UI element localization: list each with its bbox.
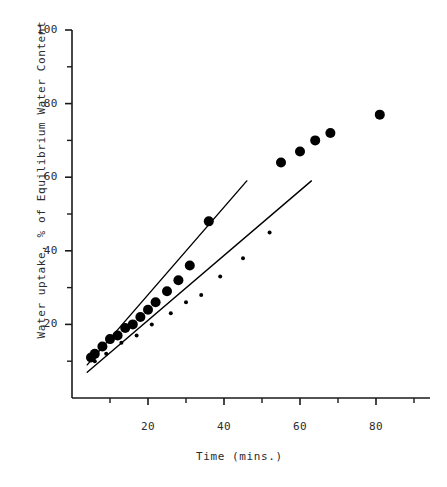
data-point [218,275,222,279]
data-point [169,311,173,315]
x-tick-label: 20 [133,420,163,433]
x-axis-ticks [110,398,414,405]
chart-figure: 10080604020 20406080 Time (mins.) Water … [0,0,447,487]
data-point [276,157,286,167]
x-tick-label: 80 [361,420,391,433]
series-small-markers [93,230,272,363]
data-point [97,341,107,351]
data-point [119,341,123,345]
data-point [113,330,123,340]
axis-lines [72,30,430,398]
y-axis-title: Water uptake, % of Equilibrium Water Con… [35,59,48,339]
series-large-markers [86,110,385,363]
chart-plot-area [0,0,447,487]
data-point [135,333,139,337]
data-point [310,135,320,145]
data-point [90,349,100,359]
data-point [268,230,272,234]
x-tick-label: 60 [285,420,315,433]
data-point [150,322,154,326]
data-point [199,293,203,297]
data-point [204,216,214,226]
data-point [128,319,138,329]
data-point [295,146,305,156]
x-axis-title: Time (mins.) [196,450,283,463]
data-point [241,256,245,260]
data-point [173,275,183,285]
data-point [185,261,195,271]
y-axis-ticks [65,30,72,361]
data-point [375,110,385,120]
data-point [143,305,153,315]
data-point [135,312,145,322]
data-point [151,297,161,307]
data-point [325,128,335,138]
x-tick-label: 40 [209,420,239,433]
data-point [104,352,108,356]
data-point [162,286,172,296]
data-point [184,300,188,304]
